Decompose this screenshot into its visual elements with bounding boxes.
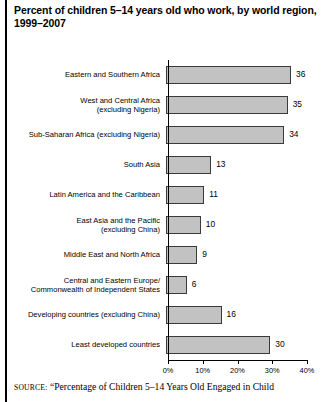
source-text: “Percentage of Children 5–14 Years Old E… (50, 381, 274, 392)
category-label-line-1: Middle East and North Africa (64, 250, 160, 259)
source-note: SOURCE: “Percentage of Children 5–14 Yea… (14, 381, 328, 394)
category-label-line-1: East Asia and the Pacific (76, 216, 160, 225)
bar-track: 34 (166, 120, 324, 150)
bar-rows: Eastern and Southern Africa36West and Ce… (14, 60, 324, 360)
bar (166, 216, 201, 234)
bar-track: 11 (166, 180, 324, 210)
category-label: West and Central Africa(excluding Nigeri… (14, 96, 166, 114)
chart-title-line-2: 1999–2007 (14, 17, 324, 30)
category-label-line-1: Developing countries (excluding China) (28, 310, 160, 319)
bar-value-label: 36 (296, 69, 305, 80)
category-label-line-1: Least developed countries (71, 340, 160, 349)
bar-value-label: 13 (216, 159, 225, 170)
x-axis-tick (203, 360, 204, 364)
x-axis-tick (168, 360, 169, 364)
category-label-line-2: (excluding China) (14, 225, 160, 234)
category-label-line-1: Latin America and the Caribbean (49, 190, 160, 199)
category-label-line-1: West and Central Africa (80, 96, 160, 105)
category-label-line-1: Sub-Saharan Africa (excluding Nigeria) (29, 130, 160, 139)
bar-row: Sub-Saharan Africa (excluding Nigeria)34 (14, 120, 324, 150)
bar-value-label: 35 (293, 99, 302, 110)
bar-row: South Asia13 (14, 150, 324, 180)
category-label: East Asia and the Pacific(excluding Chin… (14, 216, 166, 234)
bar-track: 9 (166, 240, 324, 270)
bar-track: 13 (166, 150, 324, 180)
bar-value-label: 6 (192, 279, 197, 290)
bar-value-label: 10 (206, 219, 215, 230)
bar-track: 6 (166, 270, 324, 300)
bar-row: Middle East and North Africa9 (14, 240, 324, 270)
category-label-line-2: Commonwealth of Independent States (14, 285, 160, 294)
bar-row: Eastern and Southern Africa36 (14, 60, 324, 90)
category-label-line-2: (excluding Nigeria) (14, 105, 160, 114)
category-label-line-1: South Asia (124, 160, 160, 169)
bar-track: 10 (166, 210, 324, 240)
bar (166, 276, 187, 294)
bar (166, 156, 211, 174)
bar (166, 306, 222, 324)
chart-title-line-1: Percent of children 5–14 years old who w… (14, 4, 317, 16)
bar-value-label: 30 (275, 339, 284, 350)
x-axis-tick-label: 40% (300, 366, 315, 375)
bar-row: Developing countries (excluding China)16 (14, 300, 324, 330)
x-axis-tick-label: 0% (163, 366, 174, 375)
category-label-line-1: Central and Eastern Europe/ (64, 276, 160, 285)
plot-area: Eastern and Southern Africa36West and Ce… (14, 60, 324, 360)
x-axis-tick (307, 360, 308, 364)
x-axis-tick-label: 20% (230, 366, 245, 375)
category-label: Least developed countries (14, 340, 166, 349)
x-axis-tick-label: 10% (195, 366, 210, 375)
x-axis-tick (238, 360, 239, 364)
bar-row: East Asia and the Pacific(excluding Chin… (14, 210, 324, 240)
bar-row: West and Central Africa(excluding Nigeri… (14, 90, 324, 120)
bar-track: 16 (166, 300, 324, 330)
bar-value-label: 9 (202, 249, 207, 260)
y-axis-line (168, 60, 169, 360)
bar-value-label: 11 (209, 189, 218, 200)
bar-track: 36 (166, 60, 324, 90)
category-label: Developing countries (excluding China) (14, 310, 166, 319)
category-label: Sub-Saharan Africa (excluding Nigeria) (14, 130, 166, 139)
bar-row: Latin America and the Caribbean11 (14, 180, 324, 210)
bar-row: Central and Eastern Europe/Commonwealth … (14, 270, 324, 300)
bar (166, 186, 204, 204)
category-label: Middle East and North Africa (14, 250, 166, 259)
category-label: Eastern and Southern Africa (14, 70, 166, 79)
bar (166, 336, 270, 354)
chart-title: Percent of children 5–14 years old who w… (14, 4, 324, 30)
category-label: South Asia (14, 160, 166, 169)
bar-value-label: 16 (227, 309, 236, 320)
left-border-rule (5, 0, 7, 402)
bar-value-label: 34 (289, 129, 298, 140)
category-label: Latin America and the Caribbean (14, 190, 166, 199)
chart-figure: Percent of children 5–14 years old who w… (0, 0, 328, 402)
bar (166, 96, 288, 114)
bar-track: 30 (166, 330, 324, 360)
bar (166, 66, 291, 84)
category-label: Central and Eastern Europe/Commonwealth … (14, 276, 166, 294)
x-axis-tick-label: 30% (265, 366, 280, 375)
bar-track: 35 (166, 90, 324, 120)
category-label-line-1: Eastern and Southern Africa (65, 70, 160, 79)
x-axis-tick (272, 360, 273, 364)
source-label: SOURCE: (14, 383, 47, 392)
bar (166, 246, 197, 264)
bar (166, 126, 284, 144)
bar-row: Least developed countries30 (14, 330, 324, 360)
